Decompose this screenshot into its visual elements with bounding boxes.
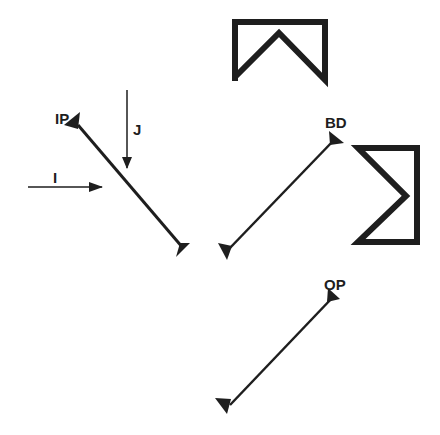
input-mirror-label: IP [55,110,69,127]
output-mirror [215,288,340,414]
beam-divider-label: BD [325,114,347,131]
beam-divider [218,131,344,260]
arrowhead-down-icon [122,157,132,169]
beam-j-arrow [122,90,132,169]
mirror-end-triangle-icon [215,398,231,414]
optical-diagram: J I IP BD OP [0,0,440,435]
output-mirror-label: OP [324,276,346,293]
roof-reflector-top [233,20,327,83]
beam-j-label: J [133,121,141,138]
roof-reflector-right [358,148,417,242]
beam-i-label: I [53,169,57,186]
arrowhead-right-icon [89,182,103,192]
mirror-end-triangle-icon [329,131,344,145]
beam-i-arrow [28,182,103,192]
mirror-end-triangle-icon [218,243,232,260]
mirror-end-triangle-icon [176,243,190,257]
